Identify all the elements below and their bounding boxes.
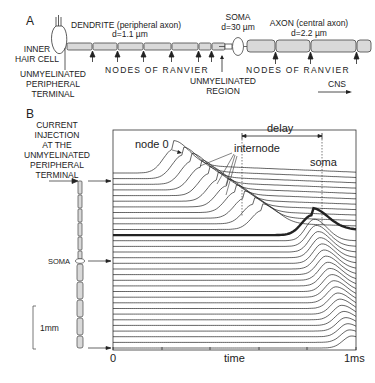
terminal-line-2: PERIPHERAL	[18, 79, 88, 89]
dendrite-diameter: d=1.1 µm	[112, 29, 148, 39]
trace-line	[113, 185, 356, 213]
terminal-line-3: TERMINAL	[18, 89, 88, 99]
injection-line-4: UNMYELINATED	[22, 150, 92, 160]
injection-line-6: TERMINAL	[22, 170, 92, 180]
trace-line	[113, 330, 356, 343]
soma-marker-label: SOMA	[48, 257, 70, 266]
trace-line	[113, 287, 356, 303]
voltage-traces	[113, 141, 356, 348]
x-axis-start: 0	[110, 352, 116, 364]
soma-annotation: soma	[310, 156, 337, 168]
x-axis-end: 1ms	[344, 352, 365, 364]
unmyelinated-region-label: UNMYELINATED REGION	[188, 76, 258, 96]
current-injection-label: CURRENT INJECTION AT THE UNMYELINATED PE…	[22, 120, 92, 180]
axon-title: AXON (central axon) d=2.2 µm	[254, 18, 364, 38]
internode-pointers	[200, 153, 237, 195]
dendrite-fiber	[67, 43, 225, 50]
region-line-2: REGION	[188, 86, 258, 96]
internode-annotation: internode	[234, 142, 280, 154]
terminal-line-1: UNMYELINATED	[18, 69, 88, 79]
inner-hair-cell-label: INNER HAIR CELL	[12, 44, 62, 64]
injection-line-5: PERIPHERAL	[22, 160, 92, 170]
delay-annotation: delay	[267, 122, 293, 134]
inner-hair-cell-line-2: HAIR CELL	[12, 54, 62, 64]
scale-bar	[33, 306, 36, 349]
injection-line-2: INJECTION	[22, 130, 92, 140]
trace-line	[113, 268, 356, 286]
nodes-of-ranvier-dendrite-label: NODES OF RANVIER	[105, 65, 209, 75]
node0-annotation: node 0	[135, 138, 169, 150]
inner-hair-cell-line-1: INNER	[12, 44, 62, 54]
x-axis-label: time	[224, 352, 245, 364]
axon-title-text: AXON (central axon)	[254, 18, 364, 28]
trace-line	[113, 305, 356, 320]
unmyelinated-terminal-label: UNMYELINATED PERIPHERAL TERMINAL	[18, 69, 88, 99]
region-line-1: UNMYELINATED	[188, 76, 258, 86]
trace-line	[113, 250, 356, 269]
node-arrows-dendrite	[90, 51, 214, 62]
cns-label: CNS	[328, 79, 346, 89]
trace-line	[113, 256, 356, 275]
trace-line	[113, 281, 356, 298]
injection-line-1: CURRENT	[22, 120, 92, 130]
nodes-of-ranvier-axon-label: NODES OF RANVIER	[246, 65, 350, 75]
panel-b-letter: B	[26, 107, 34, 121]
axon-fiber	[247, 40, 371, 52]
axon-diameter: d=2.2 µm	[254, 28, 364, 38]
node-arrows-axon	[273, 52, 359, 64]
injection-line-3: AT THE	[22, 140, 92, 150]
neuron-vertical-schematic	[76, 181, 85, 348]
cns-arrow-icon	[318, 90, 352, 94]
scale-bar-label: 1mm	[40, 323, 59, 333]
trace-line	[113, 204, 356, 230]
trace-line	[113, 293, 356, 309]
